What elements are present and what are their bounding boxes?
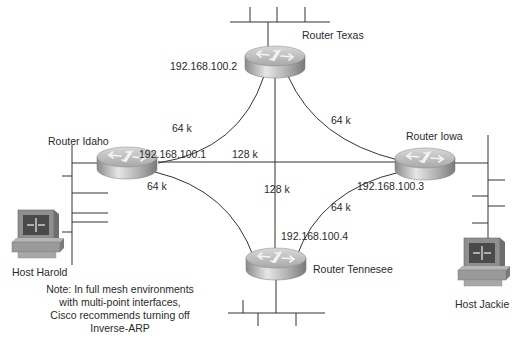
link-iowa-tennesee-speed: 64 k: [331, 201, 351, 213]
link-idaho-tennesee-speed: 64 k: [147, 180, 167, 192]
inverse-arp-note: Note: In full mesh environments with mul…: [45, 283, 195, 335]
host-jackie-label: Host Jackie: [455, 298, 509, 310]
router-iowa-ip: 192.168.100.3: [357, 180, 424, 192]
link-texas-tennesee-speed: 128 k: [264, 183, 290, 195]
router-texas-ip: 192.168.100.2: [170, 60, 237, 72]
router-iowa-label: Router Iowa: [406, 130, 463, 142]
router-tennesee: [246, 248, 306, 280]
host-jackie-icon: [458, 238, 510, 286]
host-harold-icon: [12, 210, 64, 258]
router-tennesee-ip: 192.168.100.4: [281, 230, 348, 242]
router-tennesee-label: Router Tennesee: [313, 263, 393, 275]
host-harold-label: Host Harold: [12, 266, 67, 278]
router-idaho-ip: 192.168.100.1: [139, 148, 206, 160]
router-iowa: [395, 148, 455, 180]
router-texas: [245, 46, 305, 78]
network-diagram: Router Texas 192.168.100.2 Router Idaho …: [0, 0, 527, 351]
router-idaho-label: Router Idaho: [48, 135, 109, 147]
link-idaho-iowa-speed: 128 k: [232, 148, 258, 160]
router-texas-label: Router Texas: [302, 29, 364, 41]
link-texas-iowa-speed: 64 k: [331, 114, 351, 126]
link-idaho-texas-speed: 64 k: [172, 122, 192, 134]
